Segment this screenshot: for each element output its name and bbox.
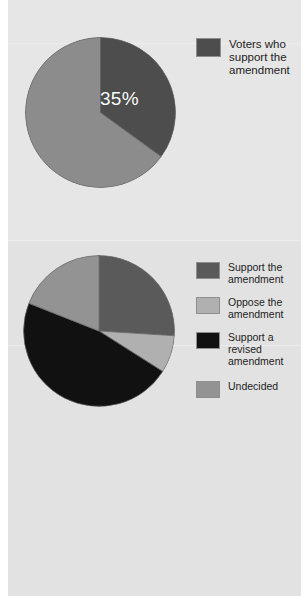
opinion-pie-legend: Support the amendment Oppose the amendme…: [196, 262, 301, 407]
support-pie-graphic: [25, 37, 176, 188]
legend-swatch-icon: [196, 297, 220, 314]
legend-item-label: Support a revised amendment: [228, 332, 298, 367]
support-pie-svg: [25, 37, 176, 188]
support-pie-legend: Voters who support the amendment: [196, 38, 301, 87]
legend-swatch-icon: [196, 262, 220, 279]
legend-swatch-icon: [196, 332, 220, 349]
legend-item-label: Oppose the amendment: [228, 297, 298, 320]
pie-slice[interactable]: [99, 256, 174, 336]
legend-item-label: Voters who support the amendment: [229, 38, 301, 78]
legend-swatch-icon: [196, 38, 221, 57]
legend-item-label: Support the amendment: [228, 262, 298, 285]
opinion-pie-svg: [23, 255, 175, 407]
support-pie-chart: 35% Voters who support the amendment: [0, 0, 301, 230]
legend-swatch-icon: [196, 381, 220, 398]
legend-item[interactable]: Support a revised amendment: [196, 332, 301, 367]
legend-item[interactable]: Undecided: [196, 381, 301, 398]
panel-seam-line: [8, 240, 301, 241]
legend-item[interactable]: Support the amendment: [196, 262, 301, 285]
opinion-pie-graphic: [23, 255, 175, 407]
legend-item[interactable]: Voters who support the amendment: [196, 38, 301, 78]
page-root: 35% Voters who support the amendment Sup…: [0, 0, 301, 607]
legend-item[interactable]: Oppose the amendment: [196, 297, 301, 320]
opinion-breakdown-pie-chart: Support the amendment Oppose the amendme…: [0, 250, 301, 450]
support-pie-slice-label: 35%: [100, 88, 139, 110]
legend-item-label: Undecided: [228, 381, 278, 393]
